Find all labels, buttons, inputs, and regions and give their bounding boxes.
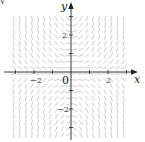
slope-segment	[50, 126, 51, 131]
slope-segment	[105, 133, 106, 138]
slope-segment	[123, 53, 125, 57]
slope-segment	[43, 29, 44, 34]
slope-segment	[91, 84, 95, 87]
slope-segment	[25, 53, 27, 57]
slope-segment	[86, 108, 88, 112]
slope-segment	[37, 102, 38, 107]
slope-segment	[79, 36, 82, 39]
slope-segment	[25, 102, 26, 107]
slope-segment	[43, 84, 46, 88]
slope-segment	[31, 108, 32, 113]
slope-segment	[43, 47, 45, 51]
slope-segment	[66, 116, 71, 117]
axes: x y 0 −2 2 2 −2	[4, 0, 141, 140]
slope-segment	[117, 102, 118, 107]
slope-segment	[117, 90, 119, 95]
slope-segment	[32, 126, 33, 131]
slope-segment	[85, 85, 89, 88]
slope-segment	[24, 67, 28, 69]
slope-segment	[92, 47, 95, 51]
slope-segment	[44, 120, 45, 125]
slope-segment	[98, 84, 101, 88]
y-axis-label: y	[60, 0, 68, 13]
slope-segment	[86, 114, 88, 118]
slope-segment	[99, 17, 100, 22]
slope-segment	[13, 102, 14, 107]
slope-segment	[99, 23, 100, 28]
slope-segment	[80, 127, 83, 131]
slope-segment	[12, 66, 16, 69]
slope-segment	[31, 47, 33, 51]
slope-segment	[49, 90, 52, 94]
slope-segment	[86, 127, 88, 131]
slope-segment	[19, 35, 20, 40]
slope-segment	[60, 48, 64, 50]
slope-segment	[49, 35, 51, 39]
slope-segment	[103, 73, 108, 74]
slope-segment	[79, 97, 83, 100]
slope-segment	[66, 134, 70, 136]
slope-segment	[25, 41, 26, 46]
slope-segment	[25, 108, 26, 113]
slope-segment	[20, 133, 21, 138]
slope-segment	[104, 90, 106, 94]
slope-segment	[104, 53, 106, 57]
slope-segment	[55, 29, 57, 33]
slope-segment	[105, 114, 106, 119]
slope-segment	[91, 74, 96, 75]
slope-segment	[121, 73, 126, 74]
slope-segment	[37, 35, 38, 40]
slope-segment	[86, 17, 88, 21]
slope-segment	[55, 17, 57, 21]
slope-segment	[111, 108, 112, 113]
slope-segment	[54, 54, 58, 57]
slope-segment	[116, 84, 118, 88]
slope-segment	[31, 90, 33, 94]
slope-segment	[85, 96, 88, 100]
slope-segment	[123, 126, 124, 131]
slope-segment	[97, 60, 101, 63]
slope-segment	[31, 41, 32, 46]
slope-segment	[55, 114, 57, 118]
slope-segment	[92, 126, 93, 131]
slope-segment	[105, 102, 106, 107]
slope-segment	[38, 126, 39, 131]
slope-segment	[60, 67, 65, 68]
slope-segment	[91, 79, 95, 81]
slope-segment	[55, 96, 58, 100]
slope-segment	[17, 73, 22, 74]
slope-segment	[79, 23, 82, 27]
slope-segment	[85, 41, 88, 45]
slope-segment	[110, 47, 112, 52]
slope-segment	[66, 18, 71, 20]
slope-segment	[111, 120, 112, 125]
slope-segment	[123, 90, 124, 95]
slope-segment	[115, 67, 119, 69]
slope-segment	[25, 114, 26, 119]
slope-segment	[117, 47, 118, 52]
slope-segment	[43, 54, 46, 58]
slope-segment	[42, 60, 46, 63]
slope-segment	[111, 133, 112, 138]
slope-segment	[26, 126, 27, 131]
slope-segment	[72, 86, 77, 87]
slope-segment	[117, 114, 118, 119]
slope-segment	[92, 133, 93, 138]
slope-segment	[44, 17, 45, 22]
slope-segment	[115, 73, 120, 74]
slope-segment	[104, 60, 107, 63]
slope-segment	[25, 90, 27, 95]
slope-segment	[31, 96, 33, 101]
y-tick-label-2: 2	[62, 31, 67, 40]
slope-segment	[19, 41, 20, 46]
slope-segment	[13, 17, 14, 22]
slope-segment	[103, 67, 107, 69]
slope-segment	[116, 53, 118, 57]
slope-segment	[38, 23, 39, 28]
slope-segment	[44, 126, 45, 131]
slope-segment	[24, 60, 27, 64]
slope-segment	[98, 47, 100, 51]
slope-segment	[73, 128, 77, 131]
slope-segment	[32, 133, 33, 138]
slope-segment	[66, 55, 71, 56]
